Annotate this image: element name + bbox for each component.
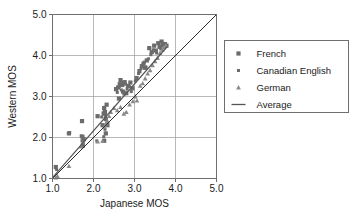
y-tick-label: 5.0 [33,9,47,20]
data-point [118,85,121,88]
data-points-layer [53,39,168,179]
data-point [147,46,151,50]
average-line [53,46,168,177]
data-point [121,81,124,84]
legend-dot-marker [237,69,240,72]
data-point [55,168,58,171]
data-point [104,131,108,135]
data-point [135,98,140,102]
x-tick-label: 2.0 [87,183,101,194]
data-point [124,83,127,86]
y-tick-label: 4.0 [33,50,47,61]
chart-root: 1.02.03.04.05.01.02.03.04.05.0 Japanese … [0,0,355,220]
data-point [140,81,145,85]
data-point [152,44,156,48]
data-point [80,119,84,123]
data-point [137,72,140,75]
series-french [54,39,169,169]
data-point [105,103,109,107]
data-point [100,116,103,119]
legend-label: French [257,48,287,59]
data-point [116,91,119,94]
data-point [130,90,133,93]
data-point [144,65,147,68]
data-point [120,88,123,91]
y-tick-label: 2.0 [33,132,47,143]
data-point [141,64,144,67]
y-axis-title: Western MOS [7,65,18,128]
series-canadian-english [55,42,167,171]
data-point [140,67,143,70]
y-tick-label: 3.0 [33,91,47,102]
x-tick-label: 4.0 [169,183,183,194]
x-tick-label: 3.0 [128,183,142,194]
data-point [161,42,164,45]
legend-label: Canadian English [257,65,331,76]
legend-square-marker [236,51,240,55]
data-point [124,110,129,114]
data-point [80,134,83,137]
legend: FrenchCanadian EnglishGermanAverage [225,41,349,113]
data-point [128,80,132,84]
x-tick-label: 5.0 [210,183,224,194]
data-point [143,76,148,80]
data-point [102,135,105,138]
data-point [152,48,155,51]
data-point [103,109,106,112]
scatter-chart: 1.02.03.04.05.01.02.03.04.05.0 Japanese … [0,0,355,220]
data-point [147,57,150,60]
data-point [149,53,152,56]
data-point [155,52,158,55]
data-point [68,131,71,134]
legend-label: Average [257,99,292,110]
data-point [143,61,146,64]
x-tick-label: 1.0 [46,183,60,194]
y-tick-label: 1.0 [33,173,47,184]
legend-label: German [257,82,291,93]
data-point [96,114,100,118]
x-axis-title: Japanese MOS [100,198,169,209]
axis-ticks: 1.02.03.04.05.01.02.03.04.05.0 [33,9,224,193]
